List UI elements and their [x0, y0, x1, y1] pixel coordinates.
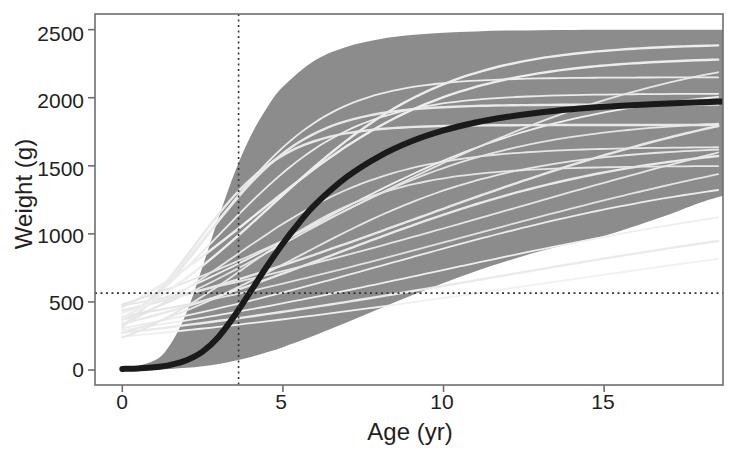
- y-tick-label-500: 500: [0, 291, 84, 315]
- x-tick-label-5: 5: [251, 390, 311, 414]
- x-tick-label-0: 0: [92, 390, 152, 414]
- growth-curve-figure: 2500 2000 1500 1000 500 0 0 5 10 15 Weig…: [0, 0, 733, 459]
- y-tick-label-0: 0: [0, 358, 84, 382]
- x-tick-label-10: 10: [412, 390, 472, 414]
- x-axis-label: Age (yr): [260, 418, 560, 446]
- y-axis-label: Weight (g): [10, 134, 38, 254]
- y-tick-label-2500: 2500: [0, 22, 84, 46]
- x-tick-label-15: 15: [573, 390, 633, 414]
- y-tick-label-2000: 2000: [0, 89, 84, 113]
